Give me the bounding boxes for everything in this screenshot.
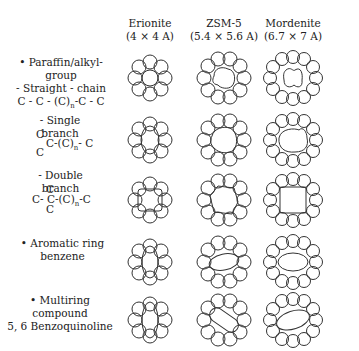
- pore-mordenite-single: [264, 113, 323, 168]
- pore-erionite-double: [128, 177, 172, 223]
- pore-erionite-multiring: [128, 297, 172, 343]
- pore-zsm5-double: [197, 174, 251, 226]
- pore-mordenite-multiring: [264, 293, 323, 348]
- pore-zsm5-straight: [197, 52, 251, 104]
- pore-zsm5-aromatic: [197, 236, 251, 288]
- pore-zsm5-single: [197, 114, 251, 166]
- pore-diagrams: [0, 0, 359, 351]
- pore-mordenite-double: [264, 173, 323, 228]
- pore-mordenite-aromatic: [264, 235, 323, 290]
- pore-zsm5-multiring: [197, 294, 251, 346]
- pore-erionite-single: [128, 117, 172, 163]
- pore-erionite-aromatic: [128, 239, 172, 285]
- pore-mordenite-straight: [264, 51, 323, 106]
- pore-erionite-straight: [128, 55, 172, 101]
